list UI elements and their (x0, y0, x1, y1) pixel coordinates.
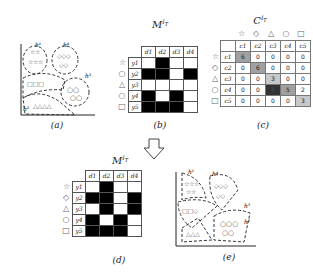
matrix-cell (114, 226, 128, 237)
matrix-cell (156, 91, 170, 102)
matrix-cell (100, 226, 114, 237)
matrix-cell (128, 226, 142, 237)
matrix-cell (142, 91, 156, 102)
matrix-cell (156, 80, 170, 91)
row-header: y4 (73, 215, 86, 226)
svg-text:h³: h³ (244, 202, 251, 209)
matrix-cell (184, 80, 198, 91)
matrix-cell (100, 182, 114, 193)
svg-text:◇◇◇: ◇◇◇ (57, 52, 71, 59)
confusion-cell: 0 (296, 52, 311, 63)
svg-text:○○: ○○ (70, 94, 82, 102)
confusion-cell: 0 (266, 96, 281, 107)
col-header: c4 (281, 41, 296, 52)
panel-b-caption: (b) (145, 120, 175, 130)
row-header: c1 (221, 52, 236, 63)
class-symbol-icon: ○ (61, 215, 71, 224)
matrix-cell (86, 226, 100, 237)
row-header: y2 (73, 193, 86, 204)
row-header: y5 (73, 226, 86, 237)
matrix-cell (142, 58, 156, 69)
matrix-cell (114, 204, 128, 215)
matrix-cell (86, 182, 100, 193)
col-header: d3 (114, 171, 128, 182)
confusion-cell: 0 (236, 85, 251, 96)
confusion-cell: 3 (266, 74, 281, 85)
panel-e-caption: (e) (214, 252, 244, 262)
class-symbol-icon: □ (117, 102, 127, 111)
row-header: y5 (129, 102, 142, 113)
col-header: d4 (184, 47, 198, 58)
svg-text:h²: h² (244, 218, 251, 225)
confusion-cell: 0 (236, 96, 251, 107)
confusion-cell: 0 (251, 74, 266, 85)
matrix-cell (128, 193, 142, 204)
row-header: y1 (129, 58, 142, 69)
class-symbol-icon: △ (266, 29, 276, 38)
confusion-cell: 0 (236, 74, 251, 85)
svg-text:h²: h² (23, 105, 30, 112)
confusion-cell: 0 (296, 63, 311, 74)
panel-d-title: MIT (100, 154, 140, 166)
class-symbol-icon: △ (61, 204, 71, 213)
confusion-cell: 0 (281, 63, 296, 74)
matrix-row: y4 (129, 91, 198, 102)
matrix-cell (114, 215, 128, 226)
matrix-row: y2 (129, 69, 198, 80)
class-symbol-icon: △ (117, 80, 127, 89)
svg-text:☆☆: ☆☆ (186, 188, 196, 195)
panel-a-scatter: ☆☆☆☆☆ ◇◇◇◇◇ ○○○○ □□□ △△△△ h¹ h⁴ h³ h² (15, 40, 97, 120)
matrix-cell (156, 58, 170, 69)
matrix-cell (156, 102, 170, 113)
svg-text:h⁴: h⁴ (63, 41, 70, 48)
class-symbol-icon: ○ (117, 69, 127, 78)
class-symbol-icon: ☆ (61, 182, 71, 191)
matrix-row: y5 (73, 226, 142, 237)
svg-text:h¹: h¹ (35, 41, 41, 48)
confusion-cell: 0 (236, 63, 251, 74)
binary-matrix-b: d1d2d3d4y1y2y3y4y5 (128, 46, 198, 113)
svg-text:☆☆☆: ☆☆☆ (28, 58, 43, 65)
col-header: d2 (100, 171, 114, 182)
matrix-row: y3 (129, 80, 198, 91)
col-header: c3 (266, 41, 281, 52)
svg-text:◇◇: ◇◇ (216, 192, 226, 199)
matrix-cell (86, 204, 100, 215)
matrix-cell (86, 215, 100, 226)
panel-c-title: CIT (240, 14, 280, 26)
confusion-cell: 0 (266, 52, 281, 63)
panel-c-caption: (c) (248, 120, 278, 130)
svg-text:△△△: △△△ (186, 230, 200, 237)
row-header: y4 (129, 91, 142, 102)
matrix-cell (86, 193, 100, 204)
panel-d-caption: (d) (104, 255, 134, 265)
matrix-cell (114, 182, 128, 193)
matrix-row: y1 (73, 182, 142, 193)
confusion-cell: 0 (296, 74, 311, 85)
row-header: y3 (129, 80, 142, 91)
svg-text:☆☆☆: ☆☆☆ (184, 180, 199, 187)
row-header: c4 (221, 85, 236, 96)
confusion-cell: 0 (251, 52, 266, 63)
matrix-cell (142, 102, 156, 113)
row-header: c3 (221, 74, 236, 85)
matrix-cell (128, 182, 142, 193)
confusion-cell: 0 (281, 74, 296, 85)
matrix-cell (142, 69, 156, 80)
panel-b-title: MIT (140, 18, 180, 30)
svg-text:h¹: h¹ (188, 168, 194, 175)
class-symbol-icon: ◇ (61, 193, 71, 202)
matrix-cell (128, 215, 142, 226)
svg-text:□□◇: □□◇ (182, 207, 198, 214)
col-header: d3 (170, 47, 184, 58)
matrix-cell (184, 69, 198, 80)
row-header: y1 (73, 182, 86, 193)
svg-text:○○○: ○○○ (220, 220, 238, 228)
matrix-row: y5 (129, 102, 198, 113)
confusion-cell: 6 (236, 52, 251, 63)
confusion-cell: 0 (281, 52, 296, 63)
svg-text:☆☆: ☆☆ (30, 48, 40, 55)
confusion-matrix: c1c2c3c4c5c160000c206000c300300c400752c5… (220, 40, 311, 107)
col-header: d1 (142, 47, 156, 58)
down-arrow-icon (143, 138, 165, 160)
